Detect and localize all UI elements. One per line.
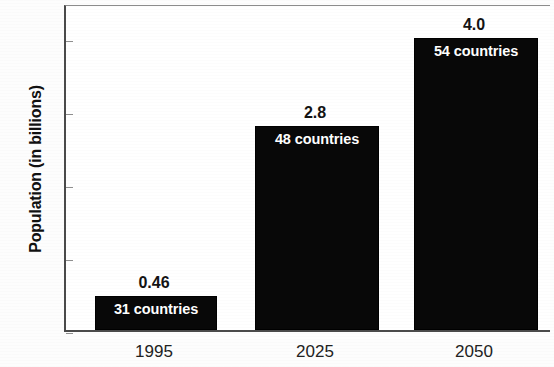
x-axis-tick-label: 1995: [84, 342, 224, 362]
bar: 31 countries: [95, 296, 217, 330]
x-axis-tick-label: 2050: [404, 342, 544, 362]
bar-annotation-label: 54 countries: [414, 43, 538, 59]
bar-chart: Population (in billions) 01234 31 countr…: [0, 0, 554, 367]
bar: 54 countries: [414, 38, 538, 330]
y-axis-title: Population (in billions): [27, 49, 45, 289]
x-axis-tick-label: 2025: [245, 342, 385, 362]
y-axis-tick: [66, 187, 73, 188]
y-axis-tick: [66, 114, 73, 115]
bar: 48 countries: [255, 126, 379, 330]
bar-value-label: 4.0: [404, 16, 544, 34]
y-axis-tick: [66, 41, 73, 42]
bar-value-label: 0.46: [84, 274, 224, 292]
y-axis-tick: [66, 260, 73, 261]
bar-value-label: 2.8: [245, 104, 385, 122]
bar-annotation-label: 48 countries: [255, 131, 379, 147]
bar-annotation-label: 31 countries: [95, 301, 217, 317]
y-axis-tick: [66, 333, 73, 334]
